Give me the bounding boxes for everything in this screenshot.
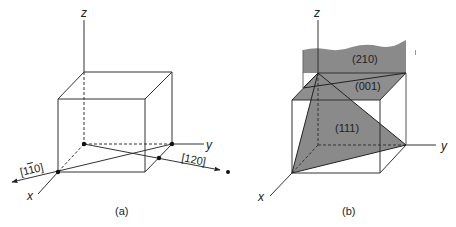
x-axis-label: x xyxy=(26,189,34,203)
lattice-point xyxy=(82,142,86,146)
x-axis xyxy=(270,173,292,196)
lattice-point xyxy=(56,170,60,174)
cube-top xyxy=(58,72,172,99)
z-axis-label: z xyxy=(313,6,320,20)
crystal-diagram: z y x [120] [110] (a) z y x xyxy=(0,0,456,227)
caption-a: (a) xyxy=(115,205,128,217)
lattice-point xyxy=(157,156,161,160)
plane-label-001: (001) xyxy=(355,80,381,92)
tick-mark xyxy=(415,50,416,55)
z-axis-label: z xyxy=(80,6,87,20)
lattice-point xyxy=(170,142,174,146)
y-axis-label: y xyxy=(205,138,213,152)
x-axis-label: x xyxy=(257,190,265,204)
plane-001 xyxy=(292,73,406,100)
lattice-point xyxy=(226,170,230,174)
caption-b: (b) xyxy=(342,205,355,217)
y-axis-label: y xyxy=(440,139,448,153)
direction-label-120: [120] xyxy=(181,151,207,167)
plane-label-210: (210) xyxy=(352,53,378,65)
plane-label-111: (111) xyxy=(335,122,359,134)
